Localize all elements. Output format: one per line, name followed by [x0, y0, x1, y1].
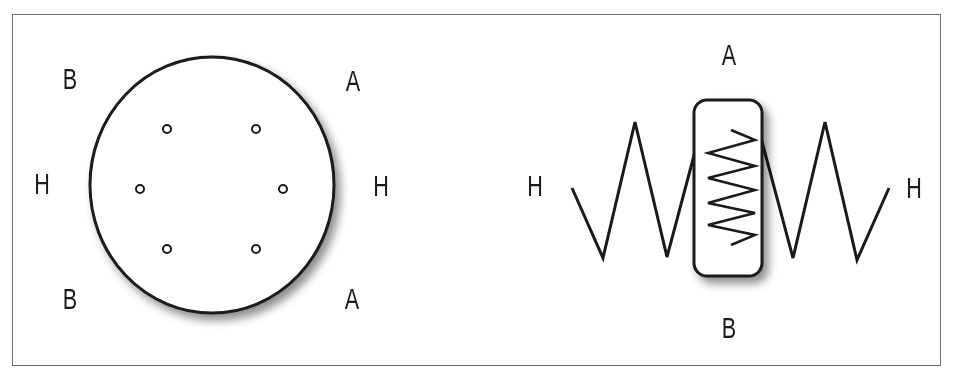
label-top: A [718, 40, 740, 70]
label-bottom: B [718, 313, 740, 343]
label-left: H [524, 171, 546, 201]
label-bottom-right: A [341, 284, 363, 314]
main-circle [90, 57, 334, 313]
label-mid-right: H [370, 171, 392, 201]
spring-group [572, 100, 889, 276]
label-top-right: A [342, 66, 364, 96]
right-spring [761, 122, 889, 260]
label-right: H [903, 173, 925, 203]
left-spring [572, 122, 696, 258]
diagram-canvas [0, 0, 953, 378]
label-bottom-left: B [59, 284, 81, 314]
label-mid-left: H [31, 169, 53, 199]
label-top-left: B [59, 64, 81, 94]
circle-group [90, 57, 334, 313]
